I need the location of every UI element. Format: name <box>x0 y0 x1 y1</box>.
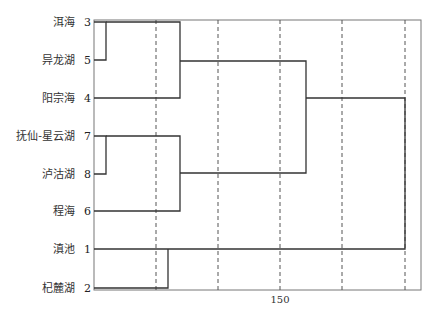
dendrogram-branches <box>94 22 405 288</box>
leaf-name: 杞麓湖 <box>42 281 75 295</box>
leaf-id: 4 <box>84 92 91 105</box>
leaf-name: 异龙湖 <box>42 54 75 67</box>
leaf-id: 7 <box>84 130 91 143</box>
leaf-id: 2 <box>84 282 91 295</box>
dendrogram-chart: 洱海 3 异龙湖 5 阳宗海 4 抚仙-星云湖 7 泸沽湖 8 程海 6 滇池 … <box>0 0 437 318</box>
leaf-name: 抚仙-星云湖 <box>16 129 75 143</box>
leaf-name: 阳宗海 <box>42 91 75 105</box>
leaf-id: 5 <box>84 54 91 67</box>
leaf-id: 8 <box>84 168 91 181</box>
leaf-name: 泸沽湖 <box>42 168 75 181</box>
leaf-name: 程海 <box>53 204 75 218</box>
x-tick-label: 150 <box>270 294 289 305</box>
leaf-name: 洱海 <box>53 15 75 29</box>
leaf-id: 3 <box>84 16 91 29</box>
leaf-name: 滇池 <box>53 242 75 256</box>
leaf-labels: 洱海 3 异龙湖 5 阳宗海 4 抚仙-星云湖 7 泸沽湖 8 程海 6 滇池 … <box>16 15 91 295</box>
leaf-id: 1 <box>84 243 91 256</box>
leaf-id: 6 <box>84 205 91 218</box>
